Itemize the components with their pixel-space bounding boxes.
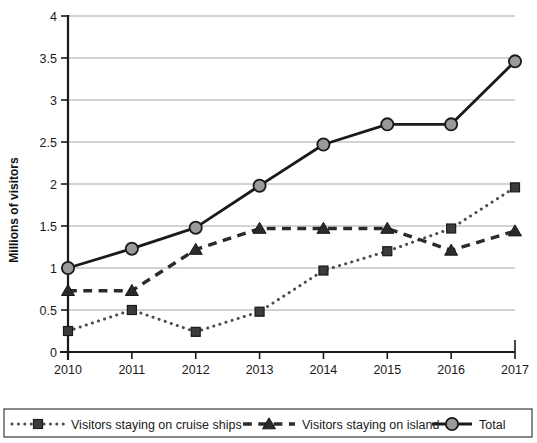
x-tick-label: 2010: [54, 363, 82, 377]
x-axis-ticks: 20102011201220132014201520162017: [54, 352, 529, 377]
y-tick-label: 3: [50, 94, 57, 108]
square-marker: [191, 327, 200, 336]
x-tick-label: 2014: [310, 363, 338, 377]
data-series-layer: [61, 55, 521, 336]
x-tick-label: 2012: [182, 363, 210, 377]
square-marker: [319, 266, 328, 275]
circle-marker: [126, 243, 138, 255]
y-tick-label: 3.5: [40, 52, 57, 66]
square-marker: [447, 224, 456, 233]
x-tick-label: 2015: [373, 363, 401, 377]
y-axis-ticks: 00.511.522.533.54: [40, 10, 68, 360]
triangle-marker: [381, 222, 394, 233]
triangle-marker: [125, 284, 138, 295]
y-tick-label: 4: [50, 10, 57, 24]
series-2: [62, 55, 521, 274]
square-marker: [127, 306, 136, 315]
circle-marker: [445, 118, 457, 130]
chart-container: Millions of visitors 00.511.522.533.54 2…: [0, 0, 537, 443]
chart-svg: Millions of visitors 00.511.522.533.54 2…: [0, 0, 537, 443]
series-line: [68, 61, 515, 268]
series-line: [68, 229, 515, 291]
circle-marker: [62, 262, 74, 274]
circle-marker: [317, 138, 329, 150]
y-tick-label: 2: [50, 178, 57, 192]
square-marker: [511, 183, 520, 192]
gridlines: [68, 16, 515, 310]
circle-marker: [190, 222, 202, 234]
triangle-marker: [445, 244, 458, 255]
square-marker: [383, 247, 392, 256]
square-marker: [64, 327, 73, 336]
x-tick-label: 2016: [437, 363, 465, 377]
circle-marker: [253, 180, 265, 192]
x-tick-label: 2017: [501, 363, 529, 377]
x-tick-label: 2011: [118, 363, 145, 377]
y-axis-title-text: Millions of visitors: [7, 157, 21, 263]
x-tick-label: 2013: [246, 363, 274, 377]
y-tick-label: 0.5: [40, 304, 57, 318]
y-tick-label: 1: [50, 262, 57, 276]
circle-marker: [381, 118, 393, 130]
y-tick-label: 0: [50, 346, 57, 360]
square-marker: [255, 307, 264, 316]
y-tick-label: 2.5: [40, 136, 57, 150]
y-axis-title: Millions of visitors: [7, 157, 21, 263]
y-tick-label: 1.5: [40, 220, 57, 234]
series-0: [64, 183, 520, 336]
triangle-marker: [253, 222, 266, 233]
circle-marker: [509, 55, 521, 67]
